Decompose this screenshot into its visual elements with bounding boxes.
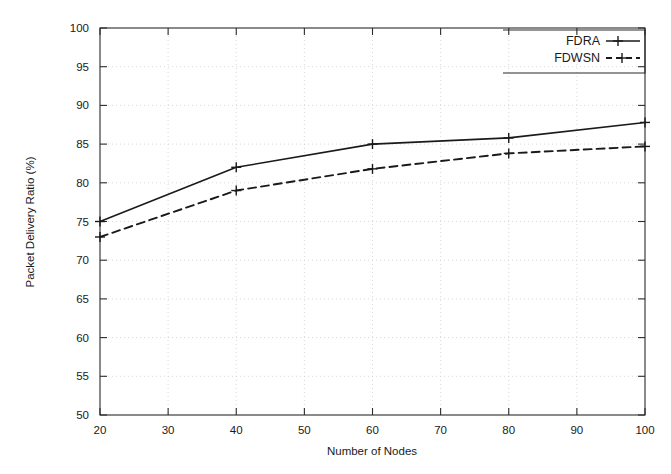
x-tick-label: 20 <box>94 424 107 436</box>
y-tick-label: 90 <box>76 99 89 111</box>
packet-delivery-ratio-line-chart: 50556065707580859095100 2030405060708090… <box>0 0 671 474</box>
x-tick-label: 70 <box>434 424 447 436</box>
x-tick-label: 90 <box>570 424 583 436</box>
x-tick-label: 60 <box>366 424 379 436</box>
y-tick-label: 60 <box>76 332 89 344</box>
x-axis-title: Number of Nodes <box>327 445 417 457</box>
y-tick-label: 55 <box>76 370 89 382</box>
y-tick-label: 70 <box>76 254 89 266</box>
x-tick-label: 40 <box>230 424 243 436</box>
y-tick-label: 95 <box>76 61 89 73</box>
y-axis-title: Packet Delivery Ratio (%) <box>24 156 36 287</box>
x-tick-label: 100 <box>635 424 654 436</box>
y-tick-label: 80 <box>76 177 89 189</box>
y-tick-label: 65 <box>76 293 89 305</box>
y-tick-label: 100 <box>70 22 89 34</box>
legend-label-fdra: FDRA <box>566 34 601 48</box>
chart-figure: 50556065707580859095100 2030405060708090… <box>0 0 671 474</box>
x-tick-label: 30 <box>162 424 175 436</box>
y-tick-label: 85 <box>76 138 89 150</box>
x-tick-label: 50 <box>298 424 311 436</box>
y-tick-label: 50 <box>76 409 89 421</box>
y-tick-label: 75 <box>76 216 89 228</box>
x-tick-label: 80 <box>502 424 515 436</box>
legend-label-fdwsn: FDWSN <box>554 51 600 65</box>
